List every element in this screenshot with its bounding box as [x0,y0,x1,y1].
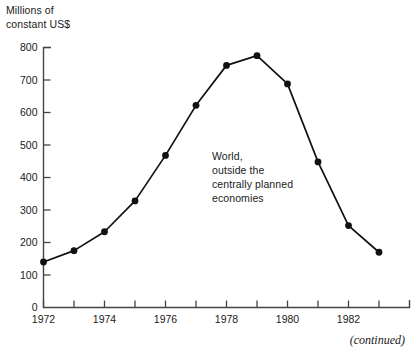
y-tick-label: 100 [20,269,38,281]
data-point-marker [71,247,78,254]
data-point-marker [376,249,383,256]
figure-container: Millions of constant US$ 010020030040050… [0,0,417,356]
continued-note: (continued) [350,333,405,348]
y-tick-label: 600 [20,106,38,118]
data-point-marker [40,259,47,266]
x-tick-label: 1972 [32,313,56,325]
y-tick-label: 300 [20,204,38,216]
data-point-marker [284,81,291,88]
y-tick-label: 700 [20,74,38,86]
y-tick-label: 200 [20,236,38,248]
x-tick-group: 197219741976197819801982 [32,301,379,325]
data-point-marker [132,198,139,205]
y-tick-label: 400 [20,171,38,183]
x-tick-label: 1980 [276,313,300,325]
data-point-marker [315,159,322,166]
data-point-marker [101,228,108,235]
line-chart-plot: 0100200300400500600700800 19721974197619… [0,0,417,356]
y-tick-group: 0100200300400500600700800 [20,41,51,313]
y-tick-label: 800 [20,41,38,53]
x-tick-label: 1974 [93,313,117,325]
x-tick-label: 1978 [215,313,239,325]
y-tick-label: 0 [32,301,38,313]
y-tick-label: 500 [20,139,38,151]
data-point-marker [162,152,169,159]
x-tick-label: 1982 [337,313,361,325]
series-annotation: World, outside the centrally planned eco… [212,149,293,205]
data-point-marker [254,52,261,59]
data-point-marker [223,62,230,69]
data-point-marker [345,222,352,229]
data-point-marker [193,102,200,109]
x-tick-label: 1976 [154,313,178,325]
